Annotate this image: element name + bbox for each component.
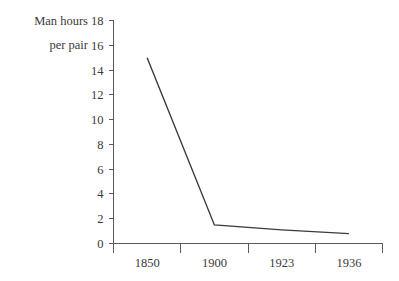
y-axis-tick-label: 6 bbox=[97, 163, 103, 177]
chart-container: 024681012141618 1850190019231936 Man hou… bbox=[0, 0, 399, 281]
y-axis-tick-label: 0 bbox=[97, 237, 103, 251]
x-axis-tick-label: 1936 bbox=[336, 256, 361, 270]
y-axis-title: Man hours per pair bbox=[34, 14, 89, 52]
x-axis-tick-labels: 1850190019231936 bbox=[135, 256, 362, 270]
x-axis-tick-label: 1850 bbox=[135, 256, 160, 270]
y-axis-title-line-2: per pair bbox=[49, 38, 88, 52]
y-axis: 024681012141618 bbox=[91, 14, 114, 251]
x-axis-tick-label: 1900 bbox=[202, 256, 227, 270]
y-axis-tick-label: 8 bbox=[97, 138, 103, 152]
x-axis-ticks bbox=[114, 244, 383, 253]
y-axis-tick-label: 10 bbox=[91, 113, 104, 127]
data-series-line bbox=[147, 58, 349, 234]
y-axis-tick-label: 12 bbox=[91, 88, 104, 102]
x-axis-tick-label: 1923 bbox=[269, 256, 294, 270]
x-axis: 1850190019231936 bbox=[114, 244, 383, 270]
y-axis-title-line-1: Man hours bbox=[34, 14, 88, 28]
y-axis-tick-label: 14 bbox=[91, 64, 104, 78]
y-axis-ticks bbox=[109, 21, 114, 244]
line-chart: 024681012141618 1850190019231936 Man hou… bbox=[0, 0, 399, 281]
y-axis-tick-label: 18 bbox=[91, 14, 104, 28]
y-axis-tick-labels: 024681012141618 bbox=[91, 14, 104, 251]
y-axis-tick-label: 16 bbox=[91, 39, 104, 53]
y-axis-tick-label: 4 bbox=[97, 187, 104, 201]
y-axis-tick-label: 2 bbox=[97, 212, 103, 226]
